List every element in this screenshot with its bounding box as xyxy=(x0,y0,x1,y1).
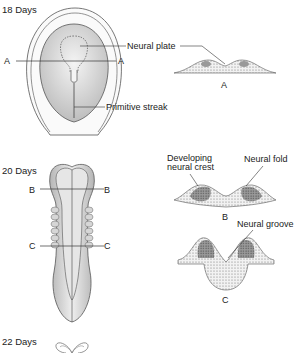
section-label-b-right: B xyxy=(104,185,110,195)
embryo-22-day-head-right xyxy=(72,343,88,353)
label-neural-plate: Neural plate xyxy=(127,41,176,51)
label-primitive-streak: Primitive streak xyxy=(106,102,168,112)
primitive-node xyxy=(71,70,77,82)
neural-development-diagram: 18 Days A A Neural plate Primitive strea… xyxy=(0,0,299,353)
day-label-22: 22 Days xyxy=(2,336,37,347)
stage-22-days: 22 Days xyxy=(2,336,88,353)
cross-section-a: A xyxy=(174,46,276,90)
cross-section-label-a: A xyxy=(221,80,227,90)
section-label-a-left: A xyxy=(4,56,10,66)
embryo-22-day-head-left xyxy=(56,343,72,353)
section-label-c-right: C xyxy=(104,241,111,251)
label-neural-fold: Neural fold xyxy=(244,154,288,164)
section-label-a-right: A xyxy=(118,56,124,66)
cross-section-c: Neural groove C xyxy=(178,219,294,305)
stage-20-days: 20 Days B B C C xyxy=(2,164,111,322)
section-label-c-left: C xyxy=(29,241,36,251)
cross-section-label-b: B xyxy=(222,212,228,222)
day-label-18: 18 Days xyxy=(2,4,37,15)
day-label-20: 20 Days xyxy=(2,165,37,176)
stage-18-days: 18 Days A A Neural plate Primitive strea… xyxy=(2,4,176,135)
section-label-b-left: B xyxy=(29,185,35,195)
label-neural-crest: neural crest xyxy=(167,162,215,172)
cross-section-b: Developing neural crest Neural fold B xyxy=(167,153,288,222)
label-neural-groove: Neural groove xyxy=(237,219,294,229)
cross-section-label-c: C xyxy=(222,295,229,305)
